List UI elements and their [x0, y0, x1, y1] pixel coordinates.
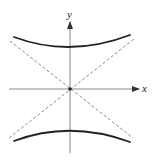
upper-branch [14, 35, 130, 47]
lower-branch [14, 131, 130, 142]
x-axis-label: x [141, 82, 147, 94]
y-axis-label: y [66, 8, 72, 20]
origin-dot [68, 87, 72, 91]
hyperbola-diagram: y x [0, 0, 156, 162]
